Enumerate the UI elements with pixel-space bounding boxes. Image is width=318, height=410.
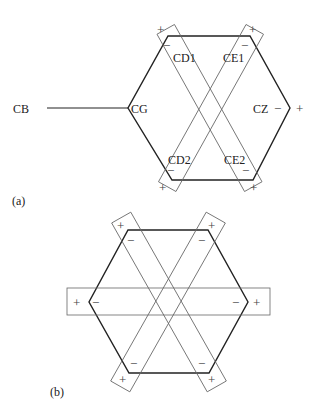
benzene-ring-b <box>89 230 248 373</box>
atom-label-cb: CB <box>13 102 29 116</box>
sign-plus: + <box>119 372 126 387</box>
sign-minus: − <box>167 163 174 178</box>
sign-plus: + <box>159 180 166 195</box>
diagram-canvas: CB CG CD1 CE1 CZ CD2 CE2 + − + − − + − +… <box>0 0 318 410</box>
sign-plus: + <box>250 180 257 195</box>
sign-minus: − <box>242 163 249 178</box>
sign-minus: − <box>92 295 99 310</box>
sign-minus: − <box>232 295 239 310</box>
atom-label-ce1: CE1 <box>223 51 244 65</box>
atom-label-cg: CG <box>131 102 148 116</box>
sign-plus: + <box>253 295 260 310</box>
diagram-svg: CB CG CD1 CE1 CZ CD2 CE2 + − + − − + − +… <box>0 0 318 410</box>
sign-plus: + <box>73 295 80 310</box>
panel-a: CB CG CD1 CE1 CZ CD2 CE2 + − + − − + − +… <box>12 22 303 208</box>
panel-b: + − + − + − − + − + − + (b) <box>50 212 270 399</box>
sign-plus: + <box>208 218 215 233</box>
sign-minus: − <box>198 356 205 371</box>
sign-minus: − <box>127 233 134 248</box>
atom-label-cz: CZ <box>253 102 268 116</box>
panel-caption-a: (a) <box>12 194 25 208</box>
panel-caption-b: (b) <box>50 385 64 399</box>
sign-plus: + <box>157 22 164 37</box>
sign-minus: − <box>130 356 137 371</box>
sign-plus: + <box>296 101 303 116</box>
atom-label-cd1: CD1 <box>173 51 196 65</box>
sign-minus: − <box>198 233 205 248</box>
sign-minus: − <box>241 38 248 53</box>
sign-minus: − <box>163 38 170 53</box>
sign-plus: + <box>249 22 256 37</box>
sign-plus: + <box>117 218 124 233</box>
sign-plus: + <box>208 372 215 387</box>
sign-minus: − <box>274 101 281 116</box>
